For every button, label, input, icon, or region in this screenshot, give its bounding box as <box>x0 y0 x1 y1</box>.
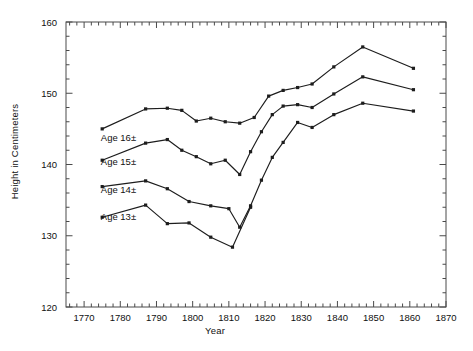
x-tick-label: 1860 <box>399 312 420 323</box>
data-point <box>101 127 104 130</box>
data-point <box>311 126 314 129</box>
data-point <box>209 204 212 207</box>
data-point <box>144 142 147 145</box>
x-tick-label: 1850 <box>363 312 384 323</box>
data-point <box>238 122 241 125</box>
data-point <box>238 173 241 176</box>
data-point <box>296 121 299 124</box>
data-point <box>249 150 252 153</box>
data-point <box>282 141 285 144</box>
y-tick-label: 120 <box>41 302 57 313</box>
data-point <box>195 119 198 122</box>
data-point <box>209 236 212 239</box>
x-tick-label: 1830 <box>291 312 312 323</box>
x-tick-label: 1870 <box>435 312 456 323</box>
data-point <box>209 162 212 165</box>
data-point <box>209 117 212 120</box>
data-point <box>296 86 299 89</box>
tick-labels: 1770178017901800181018201830184018501860… <box>41 17 456 323</box>
data-point <box>180 149 183 152</box>
y-tick-label: 140 <box>41 159 57 170</box>
data-point <box>227 207 230 210</box>
data-point <box>249 206 252 209</box>
data-point <box>166 138 169 141</box>
x-tick-label: 1810 <box>218 312 239 323</box>
data-point <box>224 159 227 162</box>
data-point <box>271 113 274 116</box>
data-point <box>144 107 147 110</box>
series-label-16: Age 16± <box>101 132 136 143</box>
data-point <box>260 179 263 182</box>
data-point <box>166 107 169 110</box>
data-point <box>166 222 169 225</box>
data-point <box>180 109 183 112</box>
y-axis-title: Height in Centimeters <box>9 97 20 207</box>
data-point <box>412 88 415 91</box>
series-line <box>102 77 413 175</box>
data-point <box>332 65 335 68</box>
line-chart-canvas: 1770178017901800181018201830184018501860… <box>0 0 473 351</box>
data-point <box>361 45 364 48</box>
data-point <box>311 106 314 109</box>
data-point <box>224 120 227 123</box>
series-label-15: Age 15± <box>101 156 136 167</box>
x-tick-label: 1800 <box>182 312 203 323</box>
data-point <box>231 246 234 249</box>
x-tick-label: 1770 <box>74 312 95 323</box>
data-point <box>311 82 314 85</box>
series-line <box>102 47 413 129</box>
chart-figure: 1770178017901800181018201830184018501860… <box>0 0 473 351</box>
data-point <box>332 92 335 95</box>
data-point <box>195 155 198 158</box>
x-tick-label: 1820 <box>254 312 275 323</box>
data-point <box>267 95 270 98</box>
series-label-13: Age 13± <box>101 211 136 222</box>
data-point <box>253 116 256 119</box>
data-point <box>144 204 147 207</box>
data-point <box>412 109 415 112</box>
data-point <box>361 75 364 78</box>
data-point <box>260 130 263 133</box>
x-tick-label: 1780 <box>110 312 131 323</box>
data-point <box>187 221 190 224</box>
x-axis-title: Year <box>155 325 275 336</box>
data-point <box>187 200 190 203</box>
series-labels: Age 16±Age 15±Age 14±Age 13± <box>101 132 136 222</box>
data-point <box>412 67 415 70</box>
x-tick-label: 1840 <box>327 312 348 323</box>
data-point <box>282 89 285 92</box>
data-point <box>271 156 274 159</box>
y-tick-label: 160 <box>41 17 57 28</box>
data-point <box>282 104 285 107</box>
data-point <box>332 113 335 116</box>
data-point <box>296 103 299 106</box>
x-tick-label: 1790 <box>146 312 167 323</box>
data-point <box>144 179 147 182</box>
data-point <box>361 102 364 105</box>
data-point <box>166 187 169 190</box>
data-series <box>101 45 415 248</box>
y-tick-label: 130 <box>41 230 57 241</box>
series-label-14: Age 14± <box>101 184 136 195</box>
y-tick-label: 150 <box>41 88 57 99</box>
